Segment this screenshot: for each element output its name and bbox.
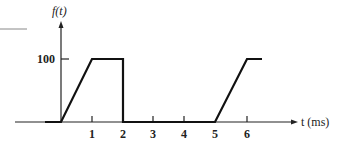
y-axis-arrow-icon — [59, 21, 64, 28]
x-tick-label-3: 3 — [150, 127, 156, 141]
x-axis-arrow-icon — [291, 120, 298, 125]
x-tick-label-6: 6 — [244, 127, 250, 141]
x-axis-label: t (ms) — [301, 115, 329, 129]
y-tick-label-100: 100 — [37, 52, 55, 66]
waveform-line — [45, 59, 262, 122]
x-tick-label-1: 1 — [89, 127, 95, 141]
x-tick-label-5: 5 — [212, 127, 218, 141]
x-tick-label-2: 2 — [120, 127, 126, 141]
waveform-chart: f(t) 100 t (ms) 1 2 3 4 5 6 — [0, 0, 337, 144]
y-axis-label: f(t) — [52, 4, 67, 18]
x-tick-label-4: 4 — [181, 127, 187, 141]
